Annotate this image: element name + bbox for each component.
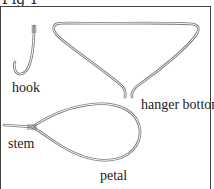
hanger-bottom-icon <box>54 23 199 97</box>
label-hanger-bottom: hanger bottom <box>141 97 214 113</box>
label-hook: hook <box>12 80 40 96</box>
label-petal: petal <box>100 168 127 184</box>
hook-icon <box>14 26 34 74</box>
label-stem: stem <box>8 136 34 152</box>
